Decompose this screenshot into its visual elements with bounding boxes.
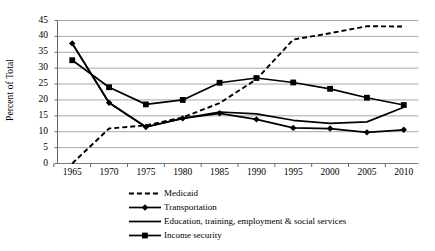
diamond-marker-line-key xyxy=(128,200,162,213)
series-line xyxy=(72,43,404,127)
legend-item[interactable]: Education, training, employment & social… xyxy=(128,214,428,227)
legend-item[interactable]: Income security xyxy=(128,228,428,241)
chart-legend: MedicaidTransportationEducation, trainin… xyxy=(128,186,428,242)
data-point-marker xyxy=(217,80,223,86)
data-point-marker xyxy=(290,80,296,86)
legend-item-label: Income security xyxy=(162,230,222,240)
data-point-marker xyxy=(290,125,296,131)
data-point-marker xyxy=(364,95,370,101)
data-point-marker xyxy=(106,84,112,90)
legend-item[interactable]: Medicaid xyxy=(128,186,428,199)
legend-marker-swatch xyxy=(142,204,148,210)
solid-line-key xyxy=(128,214,162,227)
data-point-marker xyxy=(253,116,259,122)
legend-item-label: Education, training, employment & social… xyxy=(162,216,346,226)
legend-item[interactable]: Transportation xyxy=(128,200,428,213)
legend-item-label: Transportation xyxy=(162,202,217,212)
data-point-marker xyxy=(254,75,260,81)
series-2 xyxy=(69,40,407,135)
data-point-marker xyxy=(180,97,186,103)
data-point-marker xyxy=(364,129,370,135)
chart-container: Percent of Total 051015202530354045 1965… xyxy=(0,0,435,251)
series-line xyxy=(72,43,404,132)
square-marker-line-key xyxy=(128,228,162,241)
legend-marker-swatch xyxy=(142,233,148,239)
data-point-marker xyxy=(143,101,149,107)
data-point-marker xyxy=(327,86,333,92)
data-point-marker xyxy=(401,102,407,108)
legend-item-label: Medicaid xyxy=(162,188,198,198)
dashed-line-key xyxy=(128,186,162,199)
data-point-marker xyxy=(69,57,75,63)
data-point-marker xyxy=(327,125,333,131)
series-3 xyxy=(72,43,404,127)
series-line xyxy=(72,60,404,105)
